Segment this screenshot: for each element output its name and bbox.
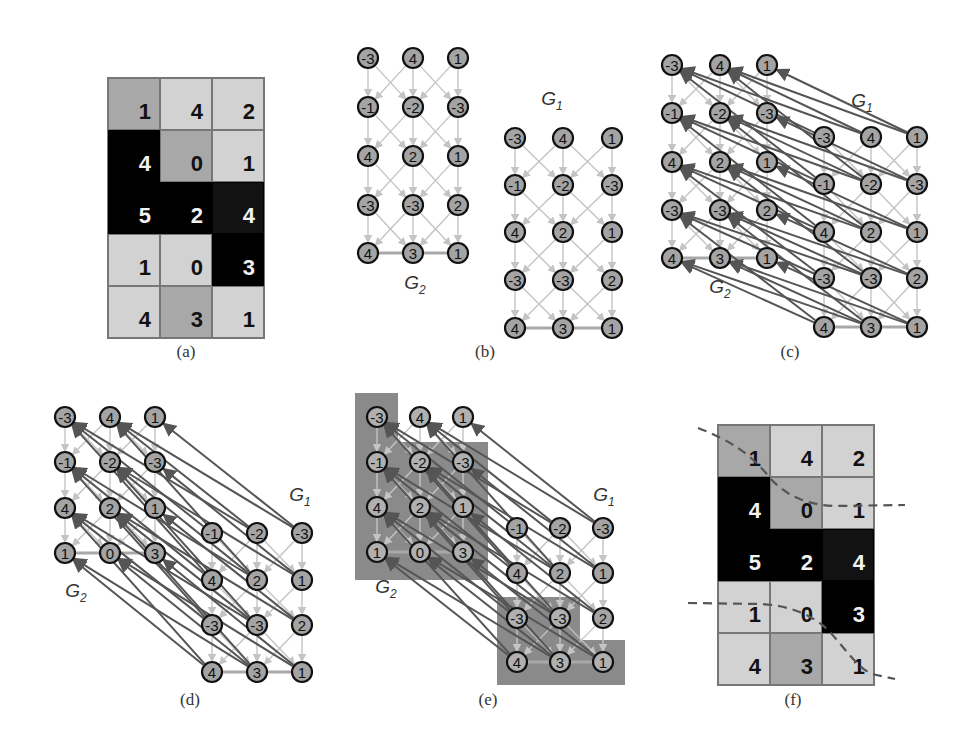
graph-node: -3 xyxy=(292,523,312,543)
graph-node: 3 xyxy=(861,317,881,337)
svg-text:-3: -3 xyxy=(910,176,923,193)
svg-text:1: 1 xyxy=(459,499,467,516)
svg-text:1: 1 xyxy=(454,148,462,165)
svg-text:-3: -3 xyxy=(817,129,830,146)
graph-node: 1 xyxy=(448,243,468,263)
svg-text:-1: -1 xyxy=(370,454,383,471)
graph-node: 4 xyxy=(507,652,527,672)
graph-node: 1 xyxy=(593,563,613,583)
svg-text:-3: -3 xyxy=(713,202,726,219)
graph-node: 3 xyxy=(550,652,570,672)
graph-node: 2 xyxy=(710,152,730,172)
svg-text:-1: -1 xyxy=(361,99,374,116)
graph-node: -1 xyxy=(358,97,378,117)
graph-node: 0 xyxy=(100,543,120,563)
label-g1-b: G1 xyxy=(541,88,562,113)
graph-node: -3 xyxy=(662,55,682,75)
svg-text:2: 2 xyxy=(913,270,921,287)
graph-node: -1 xyxy=(662,103,682,123)
caption-d: (d) xyxy=(180,690,200,710)
graph-node: 1 xyxy=(757,248,777,268)
svg-text:1: 1 xyxy=(913,129,921,146)
svg-text:4: 4 xyxy=(511,320,519,337)
svg-text:2: 2 xyxy=(409,148,417,165)
svg-text:4: 4 xyxy=(208,664,216,681)
graph-node: 1 xyxy=(907,127,927,147)
svg-text:1: 1 xyxy=(608,130,616,147)
svg-text:-3: -3 xyxy=(596,520,609,537)
svg-text:0: 0 xyxy=(416,544,424,561)
graph-node: 2 xyxy=(757,200,777,220)
label-g2-c: G2 xyxy=(709,276,730,301)
graph-node: -3 xyxy=(367,407,387,427)
graph-node: 4 xyxy=(814,222,834,242)
graph-node: -3 xyxy=(757,103,777,123)
svg-text:4: 4 xyxy=(716,57,724,74)
graph-node: 4 xyxy=(861,127,881,147)
graph-node: 4 xyxy=(202,570,222,590)
graph-node: 1 xyxy=(602,222,622,242)
svg-text:4: 4 xyxy=(364,245,372,262)
graph-node: 2 xyxy=(602,270,622,290)
svg-text:1: 1 xyxy=(151,500,159,517)
lower-seam xyxy=(688,603,895,679)
svg-text:1: 1 xyxy=(763,250,771,267)
svg-text:4: 4 xyxy=(409,50,417,67)
graph-node: 1 xyxy=(602,128,622,148)
caption-b: (b) xyxy=(475,342,495,362)
graph-node: 1 xyxy=(55,543,75,563)
svg-text:4: 4 xyxy=(416,409,424,426)
svg-text:2: 2 xyxy=(559,224,567,241)
graph-node: 1 xyxy=(757,152,777,172)
svg-text:4: 4 xyxy=(867,129,875,146)
svg-text:3: 3 xyxy=(409,245,417,262)
svg-text:-3: -3 xyxy=(58,409,71,426)
graph-node: 2 xyxy=(292,615,312,635)
graph-node: -3 xyxy=(55,407,75,427)
graph-node: 1 xyxy=(453,407,473,427)
svg-text:2: 2 xyxy=(253,572,261,589)
graph-node: 3 xyxy=(403,243,423,263)
graph-node: -2 xyxy=(403,97,423,117)
graph-node: 4 xyxy=(100,407,120,427)
svg-text:-3: -3 xyxy=(760,105,773,122)
svg-text:-3: -3 xyxy=(361,50,374,67)
svg-text:4: 4 xyxy=(513,654,521,671)
graph-node: -2 xyxy=(100,452,120,472)
graph-node: -3 xyxy=(553,270,573,290)
svg-text:-3: -3 xyxy=(665,57,678,74)
svg-text:4: 4 xyxy=(364,148,372,165)
svg-text:0: 0 xyxy=(106,545,114,562)
graph-node: 4 xyxy=(403,48,423,68)
svg-text:1: 1 xyxy=(763,57,771,74)
svg-text:-2: -2 xyxy=(864,176,877,193)
seam-dashed-lines xyxy=(688,428,905,679)
graph-node: 4 xyxy=(505,318,525,338)
graph-node: -1 xyxy=(367,452,387,472)
svg-text:3: 3 xyxy=(556,654,564,671)
svg-text:1: 1 xyxy=(151,409,159,426)
svg-text:-1: -1 xyxy=(58,454,71,471)
svg-text:1: 1 xyxy=(454,50,462,67)
svg-text:4: 4 xyxy=(373,499,381,516)
svg-text:-1: -1 xyxy=(665,105,678,122)
svg-text:3: 3 xyxy=(459,544,467,561)
svg-text:1: 1 xyxy=(454,245,462,262)
label-g2-d: G2 xyxy=(65,580,86,605)
graph-node: 1 xyxy=(145,498,165,518)
graph-node: 1 xyxy=(907,317,927,337)
graph-node: 4 xyxy=(662,248,682,268)
svg-text:-3: -3 xyxy=(553,610,566,627)
svg-text:-3: -3 xyxy=(205,617,218,634)
graph-node: -3 xyxy=(907,174,927,194)
svg-text:-3: -3 xyxy=(370,409,383,426)
svg-text:-3: -3 xyxy=(665,202,678,219)
graph-canvas: -341-1-2-3421-3-32431-341-1-2-3421-3-324… xyxy=(0,0,966,742)
graph-node: 3 xyxy=(247,662,267,682)
svg-text:1: 1 xyxy=(763,154,771,171)
svg-text:2: 2 xyxy=(454,197,462,214)
graph-node: -2 xyxy=(247,523,267,543)
graph-node: 4 xyxy=(367,497,387,517)
graph-node: -3 xyxy=(453,452,473,472)
label-g1-d: G1 xyxy=(289,484,310,509)
